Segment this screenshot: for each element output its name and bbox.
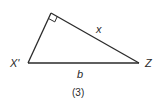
right-angle-marker-icon <box>49 16 58 22</box>
vertex-z-label: Z <box>144 57 153 69</box>
side-x <box>51 13 139 63</box>
side-x-label: x <box>95 23 102 35</box>
vertex-x-prime-label: X' <box>9 57 20 69</box>
triangle-diagram: x X' Z b (3) <box>0 0 159 101</box>
figure-caption: (3) <box>72 87 84 98</box>
side-left <box>28 13 51 63</box>
side-b-label: b <box>77 68 83 80</box>
